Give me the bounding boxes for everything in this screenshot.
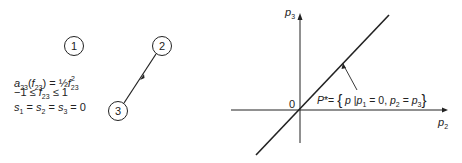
arc-2-3 [124, 54, 156, 103]
supply-constraints: s1 = s2 = s3 = 0 [14, 101, 86, 118]
origin-label: 0 [289, 98, 295, 110]
y-axis-arrow-icon [298, 13, 303, 20]
node-1-label: 1 [71, 40, 77, 52]
set-annotation: P*= { p |p1 = 0, p2 = p3} [317, 91, 426, 108]
node-2-label: 2 [159, 40, 165, 52]
set-line-p2-eq-p3 [256, 15, 389, 155]
node-3-label: 3 [115, 105, 121, 117]
x-axis-label: p2 [437, 116, 448, 130]
y-axis-label: p3 [284, 6, 295, 20]
x-axis-arrow-icon [442, 108, 448, 113]
annotation-pointer [344, 66, 357, 90]
